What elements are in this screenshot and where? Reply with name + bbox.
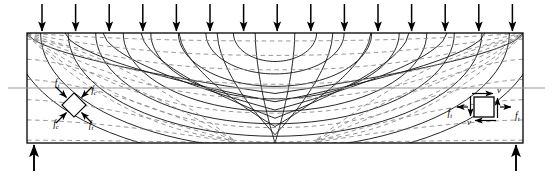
tension-trajectory <box>27 34 523 84</box>
label-v-top: v <box>497 85 501 95</box>
compression-trajectory <box>123 33 427 111</box>
label-ft-lower-right-text: ft <box>89 120 94 131</box>
compression-trajectory <box>103 33 275 110</box>
label-v-bottom: v <box>467 117 471 127</box>
load-arrows <box>42 4 512 31</box>
element-square <box>474 97 494 117</box>
label-fc-upper-right-text: fc <box>91 85 97 96</box>
label-ft-upper-left: ft <box>55 78 60 89</box>
figure-canvas: ftfcfcftftftvv <box>0 0 552 174</box>
tension-trajectory <box>27 33 523 55</box>
compression-trajectory <box>233 33 316 61</box>
label-ft-upper-left-text: ft <box>55 78 60 89</box>
label-fc-upper-right: fc <box>91 85 97 96</box>
compression-trajectory <box>96 33 455 124</box>
label-ft-left-text: ft <box>448 108 453 119</box>
compression-trajectory <box>151 33 399 99</box>
stress-trajectory-figure: ftfcfcftftftvv <box>0 0 552 174</box>
label-ft-right: ft <box>515 111 520 122</box>
tension-trajectory <box>27 33 523 41</box>
label-ft-right-text: ft <box>515 111 520 122</box>
reaction-arrows <box>34 145 516 171</box>
label-ft-lower-right: ft <box>89 120 94 131</box>
label-ft-left: ft <box>448 108 453 119</box>
tension-trajectory <box>27 34 523 70</box>
